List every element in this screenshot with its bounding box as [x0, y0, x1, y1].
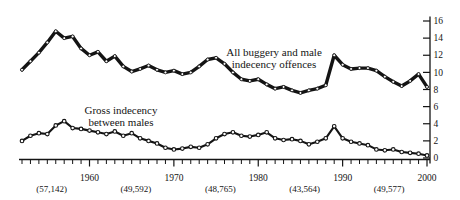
data-point-series-0	[189, 71, 192, 74]
data-point-series-1	[197, 146, 201, 150]
data-point-series-1	[121, 134, 125, 138]
data-point-series-0	[358, 67, 361, 70]
data-point-series-0	[307, 89, 310, 92]
data-point-series-1	[223, 132, 227, 136]
data-point-series-1	[96, 131, 100, 135]
x-tick-label: 1990	[333, 173, 352, 183]
data-point-series-1	[316, 140, 320, 144]
data-point-series-1	[88, 129, 92, 133]
data-point-series-0	[147, 64, 150, 67]
data-point-series-1	[391, 148, 395, 152]
data-point-series-0	[400, 85, 403, 88]
data-point-series-0	[291, 89, 294, 92]
data-point-series-0	[392, 80, 395, 83]
data-point-series-1	[79, 127, 83, 131]
data-point-series-0	[113, 55, 116, 58]
series-line-1	[22, 121, 427, 155]
data-point-series-0	[156, 68, 159, 71]
data-point-series-0	[417, 73, 420, 76]
data-point-series-0	[181, 73, 184, 76]
data-point-series-1	[214, 137, 218, 141]
data-point-series-0	[341, 63, 344, 66]
data-point-series-1	[113, 130, 117, 134]
data-point-series-0	[274, 87, 277, 90]
data-point-series-1	[299, 139, 303, 143]
data-point-series-1	[408, 151, 412, 155]
data-point-series-0	[54, 30, 57, 33]
data-point-series-1	[189, 145, 193, 149]
data-point-series-1	[181, 147, 185, 151]
data-point-series-0	[257, 78, 260, 81]
data-point-series-1	[383, 148, 387, 152]
x-tick-label: 2000	[418, 173, 437, 183]
data-point-series-1	[307, 143, 311, 147]
x-sub-label: (57,142)	[36, 184, 67, 194]
data-point-series-1	[62, 119, 66, 123]
data-point-series-1	[240, 134, 244, 138]
data-point-series-0	[71, 35, 74, 38]
data-point-series-0	[324, 84, 327, 87]
series-label-gross-indecency: Gross indecency between males	[84, 105, 157, 129]
x-sub-label: (49,577)	[374, 184, 405, 194]
data-point-series-0	[383, 75, 386, 78]
data-point-series-0	[29, 60, 32, 63]
data-point-series-1	[105, 132, 109, 136]
y-tick-label: 12	[434, 50, 444, 60]
data-point-series-1	[164, 146, 168, 150]
data-point-series-0	[265, 83, 268, 86]
chart-svg: 19601970198019902000(57,142)(49,592)(48,…	[0, 0, 460, 200]
x-sub-label: (49,592)	[121, 184, 152, 194]
x-sub-label: (43,564)	[289, 184, 320, 194]
x-tick-label: 1960	[80, 173, 99, 183]
data-point-series-0	[96, 50, 99, 53]
data-point-series-1	[138, 137, 142, 141]
data-point-series-0	[198, 65, 201, 68]
data-point-series-0	[316, 87, 319, 90]
data-point-series-1	[256, 133, 260, 137]
data-point-series-1	[349, 140, 353, 144]
data-point-series-1	[366, 143, 370, 147]
x-sub-label: (48,765)	[205, 184, 236, 194]
data-point-series-1	[425, 154, 429, 158]
data-point-series-1	[155, 142, 159, 146]
data-point-series-1	[341, 137, 345, 141]
data-point-series-1	[37, 131, 41, 135]
data-point-series-1	[417, 152, 421, 156]
data-point-series-0	[215, 56, 218, 59]
series-label-gross-line2: between males	[88, 116, 153, 128]
y-tick-label: 0	[434, 153, 439, 163]
data-point-series-0	[63, 37, 66, 40]
y-tick-label: 14	[434, 33, 444, 43]
data-point-series-0	[37, 51, 40, 54]
data-point-series-0	[366, 67, 369, 70]
data-point-series-0	[105, 60, 108, 63]
y-tick-label: 10	[434, 68, 444, 78]
data-point-series-1	[147, 139, 151, 143]
data-point-series-0	[333, 54, 336, 57]
data-point-series-0	[426, 85, 429, 88]
data-point-series-1	[206, 143, 210, 147]
x-tick-label: 1970	[164, 173, 183, 183]
data-point-series-1	[332, 125, 336, 129]
data-point-series-0	[282, 85, 285, 88]
data-point-series-0	[206, 58, 209, 61]
data-point-series-0	[172, 69, 175, 72]
y-tick-label: 6	[434, 102, 439, 112]
data-point-series-0	[164, 71, 167, 74]
data-point-series-0	[231, 71, 234, 74]
data-point-series-1	[324, 137, 328, 141]
data-point-series-0	[240, 78, 243, 81]
data-point-series-1	[130, 131, 134, 135]
data-point-series-1	[400, 150, 404, 154]
series-label-gross-line1: Gross indecency	[84, 104, 157, 116]
series-label-buggery-line1: All buggery and male	[226, 46, 322, 58]
data-point-series-1	[273, 137, 277, 141]
data-point-series-1	[71, 126, 75, 130]
data-point-series-0	[375, 69, 378, 72]
data-point-series-1	[29, 134, 33, 138]
y-tick-label: 16	[434, 16, 444, 26]
data-point-series-1	[358, 142, 362, 146]
data-point-series-1	[231, 131, 235, 135]
data-point-series-0	[88, 54, 91, 57]
data-point-series-0	[139, 67, 142, 70]
